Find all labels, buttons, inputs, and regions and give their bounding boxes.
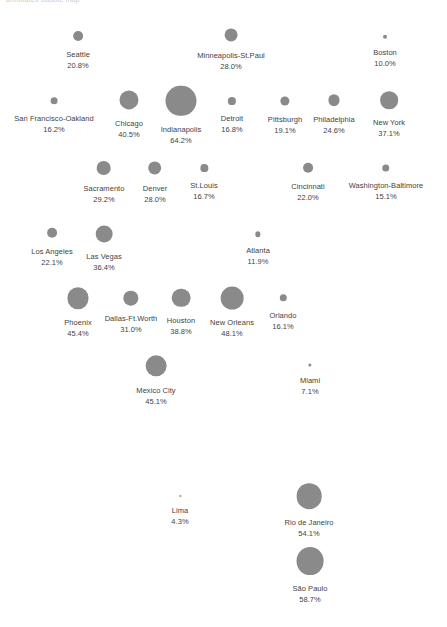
bubble-node[interactable]: Boston10.0%	[373, 47, 397, 69]
bubble-value: 15.1%	[349, 191, 424, 202]
bubble-node[interactable]: Seattle20.8%	[66, 49, 90, 71]
bubble-node[interactable]: Indianapolis64.2%	[161, 124, 202, 146]
bubble-label: Indianapolis	[161, 124, 202, 135]
bubble-value: 37.1%	[373, 128, 405, 139]
bubble-label: Washington-Baltimore	[349, 180, 424, 191]
bubble-node[interactable]: São Paulo58.7%	[292, 583, 327, 605]
bubble-label: Detroit	[221, 113, 243, 124]
bubble-node[interactable]: Minneapolis-St.Paul28.0%	[197, 50, 265, 72]
bubble-node[interactable]: Cincinnati22.0%	[291, 181, 324, 203]
bubble-marker[interactable]	[228, 97, 236, 105]
bubble-label: Minneapolis-St.Paul	[197, 50, 265, 61]
bubble-label: San Francisco-Oakland	[14, 113, 93, 124]
bubble-marker[interactable]	[224, 28, 237, 41]
bubble-value: 22.1%	[31, 257, 72, 268]
bubble-label: Chicago	[115, 118, 143, 129]
bubble-node[interactable]: Chicago40.5%	[115, 118, 143, 140]
bubble-marker[interactable]	[296, 547, 324, 575]
bubble-node[interactable]: Dallas-Ft.Worth31.0%	[105, 313, 158, 335]
bubble-value: 19.1%	[268, 125, 302, 136]
bubble-label: Rio de Janeiro	[284, 517, 333, 528]
bubble-marker[interactable]	[279, 294, 286, 301]
bubble-label: Pittsburgh	[268, 114, 302, 125]
bubble-node[interactable]: Miami7.1%	[300, 375, 320, 397]
bubble-value: 31.0%	[105, 324, 158, 335]
bubble-node[interactable]: Los Angeles22.1%	[31, 246, 72, 268]
bubble-marker[interactable]	[179, 495, 181, 497]
bubble-value: 45.4%	[64, 328, 91, 339]
bubble-label: Miami	[300, 375, 320, 386]
bubble-marker[interactable]	[221, 287, 244, 310]
bubble-marker[interactable]	[73, 31, 83, 41]
bubble-marker[interactable]	[172, 289, 190, 307]
bubble-marker[interactable]	[382, 165, 389, 172]
bubble-label: Dallas-Ft.Worth	[105, 313, 158, 324]
bubble-value: 28.0%	[197, 61, 265, 72]
bubble-marker[interactable]	[303, 163, 313, 173]
bubble-marker[interactable]	[67, 287, 89, 309]
bubble-label: Orlando	[269, 310, 296, 321]
bubble-value: 45.1%	[136, 396, 175, 407]
bubble-node[interactable]: New Orleans48.1%	[210, 317, 254, 339]
bubble-node[interactable]: Las Vegas36.4%	[86, 251, 121, 273]
bubble-value: 28.0%	[143, 194, 167, 205]
bubble-value: 22.0%	[291, 192, 324, 203]
bubble-label: Las Vegas	[86, 251, 121, 262]
bubble-node[interactable]: Detroit16.8%	[221, 113, 243, 135]
bubble-value: 7.1%	[300, 386, 320, 397]
bubble-node[interactable]: Rio de Janeiro54.1%	[284, 517, 333, 539]
bubble-value: 58.7%	[292, 594, 327, 605]
bubble-marker[interactable]	[97, 161, 111, 175]
bubble-marker[interactable]	[200, 164, 208, 172]
bubble-marker[interactable]	[119, 90, 138, 109]
bubble-marker[interactable]	[383, 35, 387, 39]
bubble-node[interactable]: New York37.1%	[373, 117, 405, 139]
bubble-marker[interactable]	[380, 91, 398, 109]
bubble-node[interactable]: Philadelphia24.6%	[313, 114, 354, 136]
bubble-value: 16.1%	[269, 321, 296, 332]
bubble-marker[interactable]	[255, 231, 261, 237]
bubble-label: Boston	[373, 47, 397, 58]
bubble-marker[interactable]	[145, 355, 166, 376]
bubble-node[interactable]: Atlanta11.9%	[246, 245, 270, 267]
bubble-label: New Orleans	[210, 317, 254, 328]
bubble-label: Phoenix	[64, 317, 91, 328]
bubble-marker[interactable]	[166, 86, 196, 116]
bubble-node[interactable]: Phoenix45.4%	[64, 317, 91, 339]
bubble-value: 40.5%	[115, 129, 143, 140]
bubble-map-chart: annotated bubble map Seattle20.8%Minneap…	[0, 0, 447, 627]
bubble-marker[interactable]	[281, 97, 290, 106]
bubble-marker[interactable]	[296, 483, 322, 509]
bubble-marker[interactable]	[328, 94, 340, 106]
bubble-label: Philadelphia	[313, 114, 354, 125]
bubble-label: Houston	[167, 315, 195, 326]
bubble-value: 24.6%	[313, 125, 354, 136]
bubble-node[interactable]: San Francisco-Oakland16.2%	[14, 113, 93, 135]
bubble-node[interactable]: Mexico City45.1%	[136, 385, 175, 407]
bubble-label: Sacramento	[84, 183, 125, 194]
chart-title-clipped: annotated bubble map	[6, 0, 80, 3]
bubble-node[interactable]: Sacramento29.2%	[84, 183, 125, 205]
bubble-marker[interactable]	[95, 225, 112, 242]
bubble-node[interactable]: St.Louis16.7%	[190, 180, 218, 202]
bubble-node[interactable]: Washington-Baltimore15.1%	[349, 180, 424, 202]
bubble-node[interactable]: Lima4.3%	[171, 505, 188, 527]
bubble-label: Seattle	[66, 49, 90, 60]
bubble-marker[interactable]	[309, 364, 312, 367]
bubble-marker[interactable]	[50, 97, 57, 104]
bubble-value: 16.8%	[221, 124, 243, 135]
bubble-value: 16.7%	[190, 191, 218, 202]
bubble-marker[interactable]	[124, 291, 139, 306]
bubble-node[interactable]: Pittsburgh19.1%	[268, 114, 302, 136]
bubble-value: 16.2%	[14, 124, 93, 135]
bubble-label: New York	[373, 117, 405, 128]
bubble-marker[interactable]	[148, 161, 161, 174]
bubble-node[interactable]: Orlando16.1%	[269, 310, 296, 332]
bubble-value: 29.2%	[84, 194, 125, 205]
bubble-node[interactable]: Denver28.0%	[143, 183, 167, 205]
bubble-label: Lima	[171, 505, 188, 516]
bubble-marker[interactable]	[47, 228, 57, 238]
bubble-label: St.Louis	[190, 180, 218, 191]
bubble-value: 54.1%	[284, 528, 333, 539]
bubble-node[interactable]: Houston38.8%	[167, 315, 195, 337]
